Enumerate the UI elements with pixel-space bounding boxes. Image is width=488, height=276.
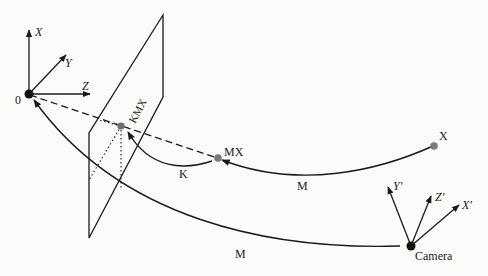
origin-point	[25, 90, 34, 99]
point-mx	[214, 154, 222, 162]
camera-z-label: Z'	[435, 190, 445, 204]
world-x-label: X	[34, 25, 43, 39]
point-kmx-label: KMX	[126, 97, 149, 125]
world-y-label: Y	[65, 56, 73, 70]
camera-x-label: X'	[461, 198, 472, 212]
transform-m-lower-label: M	[235, 247, 246, 261]
world-z-label: Z	[82, 79, 89, 93]
image-plane	[89, 15, 163, 238]
world-y-axis	[29, 55, 66, 94]
point-mx-label: MX	[224, 145, 244, 159]
camera-axes	[388, 187, 459, 246]
point-x-label: X	[439, 129, 448, 143]
point-x	[430, 142, 438, 150]
camera-y-axis	[388, 187, 411, 246]
camera-y-label: Y'	[393, 179, 403, 193]
projection-diagram: X Y Z 0 M K M Y' Z' X' Camera X MX KMX	[0, 0, 488, 276]
world-axes	[29, 30, 90, 94]
point-kmx	[117, 122, 124, 129]
transform-m-upper-curve	[222, 146, 433, 175]
transform-m-upper-label: M	[297, 179, 308, 193]
camera-x-axis	[411, 205, 459, 246]
camera-point	[407, 242, 416, 251]
transform-k-label: K	[179, 167, 188, 181]
camera-label: Camera	[415, 249, 453, 263]
camera-z-axis	[411, 196, 431, 246]
origin-label: 0	[15, 93, 21, 107]
transform-k-curve	[128, 132, 212, 166]
